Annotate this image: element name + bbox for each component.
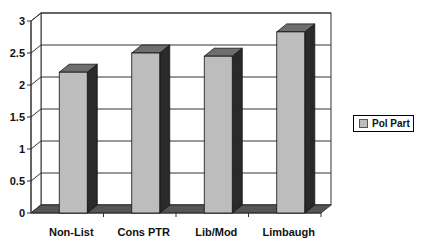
x-category-label: Limbaugh (262, 226, 315, 238)
x-category-label: Lib/Mod (195, 226, 237, 238)
y-tick-label: 0.5 (10, 175, 25, 187)
bar-side (232, 48, 242, 213)
bar-limbaugh (277, 32, 305, 213)
legend-label: Pol Part (372, 118, 410, 129)
bar-cons-ptr (132, 53, 160, 213)
y-tick-label: 2.5 (10, 47, 25, 59)
y-tick-label: 2 (19, 79, 25, 91)
chart-legend: Pol Part (353, 115, 414, 132)
y-tick-label: 0 (19, 207, 25, 219)
bar-lib-mod (204, 56, 232, 213)
bar-non-list (59, 72, 87, 213)
y-tick-label: 1 (19, 143, 25, 155)
bar-side (305, 24, 315, 213)
y-tick-label: 3 (19, 15, 25, 27)
x-category-label: Cons PTR (117, 226, 170, 238)
legend-swatch-pol-part (359, 119, 368, 128)
x-category-label: Non-List (49, 226, 94, 238)
y-tick-label: 1.5 (10, 111, 25, 123)
bar-side (160, 45, 170, 213)
bar-side (87, 64, 97, 213)
